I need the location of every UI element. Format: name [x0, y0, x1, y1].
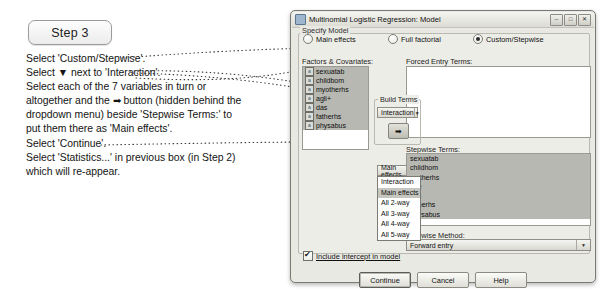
list-item-label: agli+ — [316, 95, 331, 102]
menu-item-all-5-way[interactable]: All 5-way — [378, 230, 420, 241]
variable-icon: a — [305, 112, 314, 121]
radio-main-effects-dot[interactable] — [303, 34, 313, 44]
list-item[interactable]: aphysabus — [303, 121, 368, 130]
build-terms-combo[interactable]: Interaction ▼ — [377, 107, 418, 118]
include-intercept-label: Include intercept in model — [316, 252, 400, 261]
factors-covariates-listbox[interactable]: asexuatab achildbom amyotherhs aagli+ ad… — [302, 66, 369, 150]
radio-main-effects[interactable]: Main effects — [303, 34, 356, 44]
checkbox-box[interactable] — [303, 251, 313, 261]
instruction-line-4: altogether and the ➡ button (hidden behi… — [26, 94, 291, 108]
menu-item-interaction[interactable]: Interaction — [378, 177, 420, 188]
list-item[interactable]: amyotherhs — [303, 85, 368, 94]
list-item[interactable]: adas — [303, 103, 368, 112]
forced-entry-terms-listbox[interactable] — [406, 66, 591, 138]
instruction-line-7: Select 'Continue'. — [26, 137, 291, 151]
close-icon[interactable]: ✕ — [578, 14, 591, 26]
variable-icon: a — [305, 94, 314, 103]
step-badge: Step 3 — [28, 20, 112, 45]
list-item[interactable]: physabus — [407, 210, 590, 219]
list-item-label: fatherhs — [316, 113, 341, 120]
list-item-label: sexuatab — [316, 68, 344, 75]
list-item[interactable]: age — [407, 182, 590, 191]
list-item[interactable]: motherhs — [407, 173, 590, 182]
variable-icon: a — [305, 67, 314, 76]
list-item[interactable]: das — [407, 191, 590, 200]
stepwise-method-combo[interactable]: Forward entry ▼ — [406, 239, 591, 251]
dialog-button-bar: Continue Cancel Help — [290, 272, 596, 288]
menu-item-all-2-way[interactable]: All 2-way — [378, 198, 420, 209]
instruction-line-2: Select ▼ next to 'Interaction'. — [26, 66, 291, 80]
window-icon — [295, 14, 306, 25]
annotation-panel: Step 3 Select 'Custom/Stepwise'. Select … — [0, 0, 300, 303]
maximize-icon[interactable]: □ — [564, 14, 577, 26]
cancel-button[interactable]: Cancel — [417, 272, 469, 288]
help-button[interactable]: Help — [475, 272, 527, 288]
forced-entry-terms-label: Forced Entry Terms: — [406, 57, 472, 66]
instruction-line-9: which will re-appear. — [26, 165, 291, 179]
factors-covariates-label: Factors & Covariates: — [302, 57, 373, 66]
list-item-label: physabus — [316, 122, 346, 129]
variable-icon: a — [305, 76, 314, 85]
list-item[interactable]: childhom — [407, 163, 590, 172]
radio-custom-stepwise-dot[interactable] — [473, 34, 483, 44]
continue-button[interactable]: Continue — [359, 272, 411, 288]
list-item-label: childbom — [316, 77, 344, 84]
stepwise-terms-selection: sexuatab childhom motherhs age das fathe… — [407, 154, 590, 219]
menu-item-all-4-way[interactable]: All 4-way — [378, 219, 420, 230]
variable-icon: a — [305, 103, 314, 112]
list-item[interactable]: aagli+ — [303, 94, 368, 103]
dialog-title: Multinomial Logistic Regression: Model — [309, 15, 441, 24]
instruction-line-6: put them there as 'Main effects'. — [26, 122, 291, 136]
instruction-line-5: dropdown menu) beside 'Stepwise Terms:' … — [26, 108, 291, 122]
include-intercept-checkbox[interactable]: Include intercept in model — [303, 251, 400, 261]
instruction-line-3: Select each of the 7 variables in turn o… — [26, 80, 291, 94]
list-item[interactable]: achildbom — [303, 76, 368, 85]
list-item[interactable]: asexuatab — [303, 67, 368, 76]
menu-item-main-effects[interactable]: Main effects — [378, 188, 420, 199]
list-item-label: das — [316, 104, 327, 111]
list-item[interactable]: sexuatab — [407, 154, 590, 163]
instruction-line-1: Select 'Custom/Stepwise'. — [26, 52, 291, 66]
menu-item-all-3-way[interactable]: All 3-way — [378, 209, 420, 220]
radio-custom-stepwise-label: Custom/Stepwise — [486, 35, 544, 44]
variable-icon: a — [305, 121, 314, 130]
stepwise-method-value: Forward entry — [410, 242, 453, 249]
variable-icon: a — [305, 85, 314, 94]
radio-full-factorial-label: Full factorial — [401, 35, 441, 44]
chevron-down-icon[interactable]: ▼ — [576, 240, 590, 250]
build-terms-combo-value: Interaction — [381, 109, 414, 116]
radio-full-factorial[interactable]: Full factorial — [388, 34, 441, 44]
list-item-label: myotherhs — [316, 86, 349, 93]
instruction-line-8: Select 'Statistics...' in previous box (… — [26, 151, 291, 165]
radio-full-factorial-dot[interactable] — [388, 34, 398, 44]
window-controls: – □ ✕ — [550, 14, 591, 26]
instruction-list: Select 'Custom/Stepwise'. Select ▼ next … — [26, 52, 291, 179]
term-type-dropdown-list[interactable]: Interaction Main effects All 2-way All 3… — [377, 176, 421, 241]
add-term-button[interactable]: ➡ — [388, 123, 409, 139]
list-item[interactable]: fatherhs — [407, 200, 590, 209]
radio-main-effects-label: Main effects — [316, 35, 356, 44]
chevron-down-icon[interactable]: ▼ — [414, 108, 420, 117]
stepwise-terms-listbox[interactable]: sexuatab childhom motherhs age das fathe… — [406, 153, 591, 226]
radio-custom-stepwise[interactable]: Custom/Stepwise — [473, 34, 544, 44]
minimize-icon[interactable]: – — [550, 14, 563, 26]
build-terms-legend: Build Terms — [378, 95, 419, 104]
list-item[interactable]: afatherhs — [303, 112, 368, 121]
